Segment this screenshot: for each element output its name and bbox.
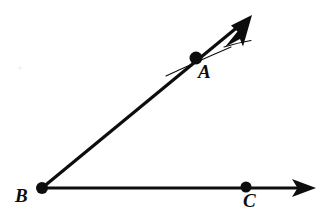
point-b-marker (36, 182, 48, 194)
point-label-a: A (198, 62, 211, 81)
geometry-figure: A B C (0, 0, 322, 220)
background-speck (18, 66, 21, 69)
point-label-c: C (243, 191, 256, 210)
geometry-canvas (0, 0, 322, 220)
point-label-b: B (15, 186, 28, 205)
